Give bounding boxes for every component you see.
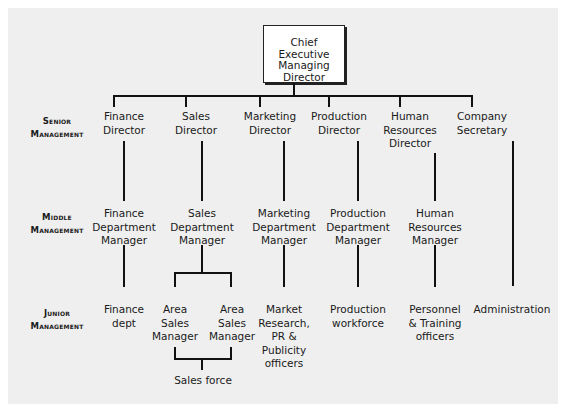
node-text: Human	[408, 207, 462, 221]
node-text: Department	[92, 221, 156, 235]
level-label-junior-line1: Junior	[22, 307, 92, 320]
connector-sales-area-bar	[174, 272, 232, 274]
node-personnel-training-officers: Personnel & Training officers	[409, 303, 462, 344]
chief-executive-box: Chief Executive Managing Director	[263, 25, 345, 83]
node-text: Manager	[152, 330, 198, 344]
connector-finance-senior-middle	[123, 141, 125, 201]
connector-production-senior-middle	[357, 141, 359, 201]
connector-production-middle-junior	[357, 245, 359, 287]
node-finance-dept: Finance dept	[104, 303, 144, 330]
managing-director-label: Managing Director	[264, 59, 344, 83]
level-label-middle-line2: Management	[22, 224, 92, 237]
node-text: & Training	[409, 317, 462, 331]
node-finance-director: Finance Director	[103, 110, 145, 137]
node-text: Production	[330, 303, 386, 317]
node-text: Production	[311, 110, 367, 124]
connector-sales-middle-split	[201, 245, 203, 273]
node-text: Research,	[258, 317, 310, 331]
node-sales-force: Sales force	[174, 374, 232, 388]
node-text: Human	[383, 110, 437, 124]
node-text: Area	[152, 303, 198, 317]
node-company-secretary: Company Secretary	[457, 110, 508, 137]
node-finance-dept-manager: Finance Department Manager	[92, 207, 156, 248]
node-marketing-director: Marketing Director	[244, 110, 296, 137]
node-text: Company	[457, 110, 508, 124]
connector-area-sales-2	[230, 272, 232, 287]
node-text: Sales	[209, 317, 255, 331]
node-text: officers	[409, 330, 462, 344]
node-text: Marketing	[244, 110, 296, 124]
connector-marketing-senior-middle	[283, 141, 285, 201]
node-text: Finance	[104, 303, 144, 317]
level-label-senior-line2: Management	[22, 128, 92, 141]
connector-salesforce-drop	[201, 358, 203, 370]
node-text: Director	[244, 124, 296, 138]
node-hr-director: Human Resources Director	[383, 110, 437, 151]
node-text: Finance	[103, 110, 145, 124]
node-text: officers	[258, 357, 310, 371]
node-text: Secretary	[457, 124, 508, 138]
node-text: Director	[103, 124, 145, 138]
node-text: Resources	[383, 124, 437, 138]
connector-sales-senior-middle	[201, 141, 203, 201]
connector-drop-finance	[113, 95, 115, 107]
node-production-director: Production Director	[311, 110, 367, 137]
level-label-junior: Junior Management	[22, 307, 92, 333]
connector-finance-middle-junior	[123, 245, 125, 287]
node-administration: Administration	[474, 303, 551, 317]
node-text: PR &	[258, 330, 310, 344]
node-text: Department	[170, 221, 234, 235]
node-production-workforce: Production workforce	[330, 303, 386, 330]
node-text: Director	[311, 124, 367, 138]
node-area-sales-manager-2: Area Sales Manager	[209, 303, 255, 344]
node-text: Finance	[92, 207, 156, 221]
node-marketing-dept-manager: Marketing Department Manager	[252, 207, 316, 248]
connector-area-sales-1	[174, 272, 176, 287]
node-sales-dept-manager: Sales Department Manager	[170, 207, 234, 248]
connector-senior-bar	[113, 95, 473, 97]
node-text: Administration	[474, 303, 551, 317]
node-text: dept	[104, 317, 144, 331]
connector-drop-company-secretary	[471, 95, 473, 107]
connector-salesforce-bar	[174, 358, 232, 360]
node-text: Director	[175, 124, 217, 138]
connector-marketing-middle-junior	[283, 245, 285, 287]
node-text: Resources	[408, 221, 462, 235]
node-text: Publicity	[258, 344, 310, 358]
connector-hr-middle-junior	[434, 245, 436, 287]
node-text: Sales	[175, 110, 217, 124]
node-text: Director	[383, 137, 437, 151]
node-text: Department	[252, 221, 316, 235]
level-label-middle-line1: Middle	[22, 211, 92, 224]
node-text: Production	[326, 207, 390, 221]
connector-drop-marketing	[259, 95, 261, 107]
node-production-dept-manager: Production Department Manager	[326, 207, 390, 248]
level-label-senior-line1: Senior	[22, 115, 92, 128]
node-text: Personnel	[409, 303, 462, 317]
connector-hr-senior-middle	[434, 153, 436, 201]
connector-drop-sales	[185, 95, 187, 107]
connector-drop-hr	[399, 95, 401, 107]
node-sales-director: Sales Director	[175, 110, 217, 137]
level-label-junior-line2: Management	[22, 320, 92, 333]
node-text: Marketing	[252, 207, 316, 221]
chief-executive-label: Chief Executive	[264, 36, 344, 60]
node-text: Department	[326, 221, 390, 235]
node-text: Area	[209, 303, 255, 317]
node-market-research-officers: Market Research, PR & Publicity officers	[258, 303, 310, 371]
node-text: Manager	[209, 330, 255, 344]
node-text: Sales	[152, 317, 198, 331]
level-label-middle: Middle Management	[22, 211, 92, 237]
connector-company-secretary-admin	[512, 141, 514, 286]
level-label-senior: Senior Management	[22, 115, 92, 141]
node-text: Sales	[170, 207, 234, 221]
node-text: Market	[258, 303, 310, 317]
node-text: workforce	[330, 317, 386, 331]
node-hr-manager: Human Resources Manager	[408, 207, 462, 248]
connector-drop-production	[328, 95, 330, 107]
node-area-sales-manager-1: Area Sales Manager	[152, 303, 198, 344]
node-text: Sales force	[174, 374, 232, 388]
